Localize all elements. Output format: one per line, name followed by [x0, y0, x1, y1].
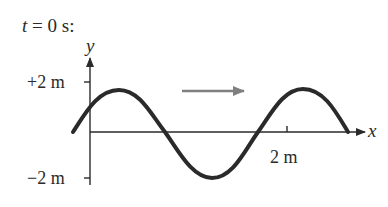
wave-diagram — [0, 0, 388, 207]
sine-wave — [73, 89, 348, 178]
